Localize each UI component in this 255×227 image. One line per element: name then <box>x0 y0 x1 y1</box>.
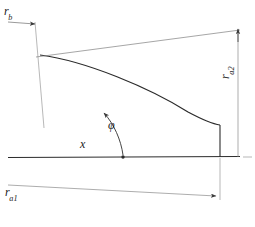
origin-point <box>121 155 124 158</box>
top-dimension-line <box>36 30 240 57</box>
label-r-a1: ra1 <box>5 186 18 202</box>
diagram-vector-graphic <box>0 0 255 227</box>
bottom-dimension-line <box>8 185 216 196</box>
label-x-axis: x <box>80 138 85 150</box>
label-r-b-sub: b <box>8 13 12 22</box>
label-phi: φ <box>108 119 115 131</box>
diagram-canvas: rb ra1 ra2 φ x <box>0 0 255 227</box>
rb-leader-line <box>8 22 35 24</box>
label-r-b: rb <box>4 5 13 21</box>
label-r-a2-base: r <box>218 74 232 79</box>
label-r-a1-sub: a1 <box>9 194 17 203</box>
label-r-a2-sub: a2 <box>227 66 236 74</box>
leading-edge-extension-line <box>35 22 44 128</box>
profile-curve <box>40 55 220 125</box>
label-r-a2: ra2 <box>219 66 235 79</box>
